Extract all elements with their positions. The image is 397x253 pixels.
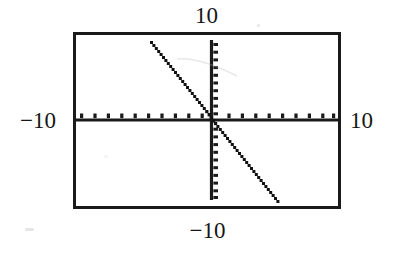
plotted-curve — [150, 41, 279, 203]
y-min-label: −10 — [9, 219, 397, 242]
graph-screenshot: 10 −10 10 −10 — [0, 0, 397, 253]
x-max-label: 10 — [350, 109, 373, 132]
plot-viewport — [73, 32, 341, 209]
plot-canvas — [76, 35, 338, 206]
y-max-label: 10 — [8, 4, 397, 27]
x-min-label: −10 — [20, 109, 56, 132]
